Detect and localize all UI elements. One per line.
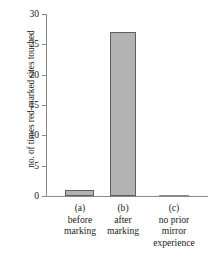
y-tick-label-5: 5: [34, 160, 39, 171]
y-tick-label-0: 0: [34, 190, 39, 201]
y-tick-label-20: 20: [29, 69, 39, 80]
bar-before-marking: [65, 190, 94, 196]
y-tick-0: 0: [42, 196, 47, 197]
y-tick-15: 15: [42, 105, 47, 106]
y-tick-25: 25: [42, 44, 47, 45]
x-category-c: (c) no prior mirror experience: [142, 202, 206, 248]
bar-after-marking: [110, 32, 136, 196]
y-tick-10: 10: [42, 135, 47, 136]
x-category-c-line3: experience: [142, 237, 206, 249]
x-category-c-line1: no prior: [142, 214, 206, 226]
x-category-c-line2: mirror: [142, 225, 206, 237]
plot-area: 0 5 10 15 20 25 30 (a) before marking: [46, 14, 208, 196]
y-tick-5: 5: [42, 166, 47, 167]
x-category-c-tag: (c): [142, 202, 206, 214]
y-tick-label-30: 30: [29, 8, 39, 19]
bar-chart-figure: no. of times red-marked sites touched 0 …: [0, 0, 217, 263]
y-tick-20: 20: [42, 75, 47, 76]
y-tick-30: 30: [42, 14, 47, 15]
y-tick-label-25: 25: [29, 38, 39, 49]
y-tick-label-10: 10: [29, 129, 39, 140]
bar-no-prior-mirror-experience: [159, 195, 189, 196]
x-axis-line: [46, 196, 208, 197]
y-tick-label-15: 15: [29, 99, 39, 110]
